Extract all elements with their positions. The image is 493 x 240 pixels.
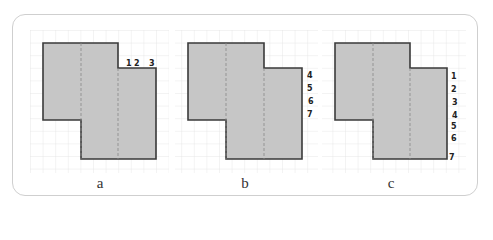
label-b-1: 5	[307, 84, 313, 93]
panel-a: 1 2 3	[30, 30, 169, 173]
label-c-6: 7	[449, 153, 455, 162]
label-b-2: 6	[308, 97, 314, 106]
label-c-0: 1	[451, 72, 457, 81]
label-c-1: 2	[451, 85, 457, 94]
label-c-5: 6	[451, 134, 457, 143]
panel-b: 4 5 6 7	[175, 30, 318, 173]
label-b-3: 7	[307, 110, 313, 119]
label-b-0: 4	[307, 71, 313, 80]
label-c-3: 4	[452, 111, 458, 120]
label-a-2: 3	[149, 59, 155, 68]
caption-b: b	[235, 176, 255, 191]
panel-c: 1 2 3 4 5 6 7	[322, 30, 466, 173]
caption-c: c	[381, 176, 401, 191]
caption-a: a	[90, 176, 110, 191]
label-a-1: 2	[134, 59, 140, 68]
label-c-4: 5	[451, 122, 457, 131]
label-c-2: 3	[452, 98, 458, 107]
label-a-0: 1	[126, 59, 132, 68]
